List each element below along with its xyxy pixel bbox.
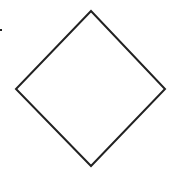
diagram-canvas [0,0,180,177]
edge-dot-mark [0,29,2,31]
decision-diamond-shape [16,11,165,166]
